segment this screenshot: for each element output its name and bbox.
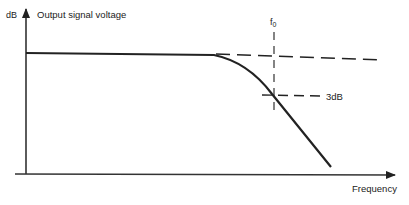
- response-curve: [26, 53, 331, 167]
- frequency-response-diagram: dB Output signal voltage f0 3dB Frequenc…: [0, 0, 409, 205]
- cutoff-frequency-label: f0: [270, 17, 277, 28]
- x-axis-label: Frequency: [352, 183, 397, 194]
- 3db-label: 3dB: [326, 91, 343, 102]
- 3db-dashed-line: [262, 95, 322, 96]
- x-axis: [15, 174, 395, 175]
- cutoff-label-subscript: 0: [273, 21, 277, 28]
- passband-reference-dashed-line: [216, 54, 382, 60]
- y-axis-label: Output signal voltage: [37, 9, 126, 20]
- y-unit-label: dB: [6, 10, 17, 20]
